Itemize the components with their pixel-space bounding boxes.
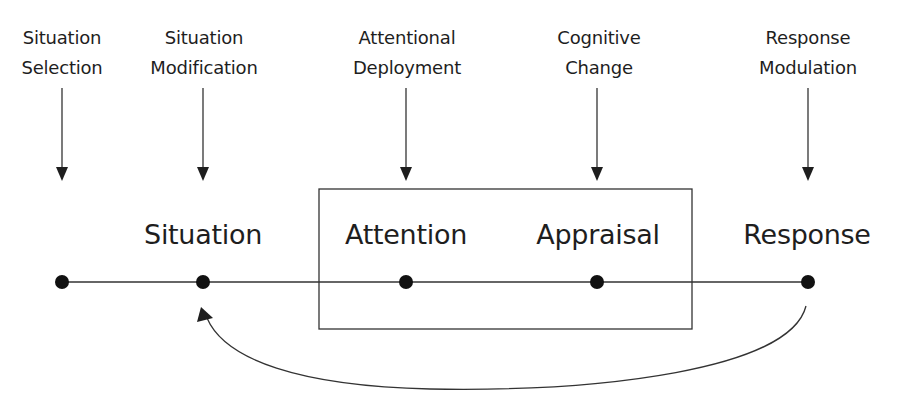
strategy-arrow-attentional-deployment <box>400 88 412 181</box>
arrowhead-down-icon <box>56 167 68 181</box>
label-cognitive-change: Cognitive Change <box>519 23 679 83</box>
label-situation-selection: Situation Selection <box>0 23 142 83</box>
feedback-arrow <box>197 306 806 389</box>
arrowhead-down-icon <box>802 167 814 181</box>
label-line1: Response <box>728 23 888 53</box>
label-attentional-deployment: Attentional Deployment <box>327 23 487 83</box>
label-line2: Change <box>519 53 679 83</box>
arrowhead-down-icon <box>400 167 412 181</box>
label-line2: Deployment <box>327 53 487 83</box>
stage-label-appraisal: Appraisal <box>498 218 698 252</box>
arrowhead-down-icon <box>591 167 603 181</box>
label-response-modulation: Response Modulation <box>728 23 888 83</box>
label-line2: Modification <box>124 53 284 83</box>
node-appraisal <box>590 275 604 289</box>
label-situation-modification: Situation Modification <box>124 23 284 83</box>
label-line1: Cognitive <box>519 23 679 53</box>
node-attention <box>399 275 413 289</box>
label-line1: Situation <box>124 23 284 53</box>
label-line2: Selection <box>0 53 142 83</box>
arrowhead-up-icon <box>197 307 213 322</box>
label-line1: Attentional <box>327 23 487 53</box>
label-line2: Modulation <box>728 53 888 83</box>
strategy-arrow-situation-modification <box>197 88 209 181</box>
arrowhead-down-icon <box>197 167 209 181</box>
node-situation-selection <box>55 275 69 289</box>
label-line1: Situation <box>0 23 142 53</box>
attention-appraisal-box <box>319 189 692 329</box>
node-situation <box>196 275 210 289</box>
node-response <box>801 275 815 289</box>
strategy-arrow-response-modulation <box>802 88 814 181</box>
stage-label-situation: Situation <box>103 218 303 252</box>
stage-label-response: Response <box>707 218 897 252</box>
strategy-arrow-cognitive-change <box>591 88 603 181</box>
strategy-arrow-situation-selection <box>56 88 68 181</box>
stage-label-attention: Attention <box>306 218 506 252</box>
